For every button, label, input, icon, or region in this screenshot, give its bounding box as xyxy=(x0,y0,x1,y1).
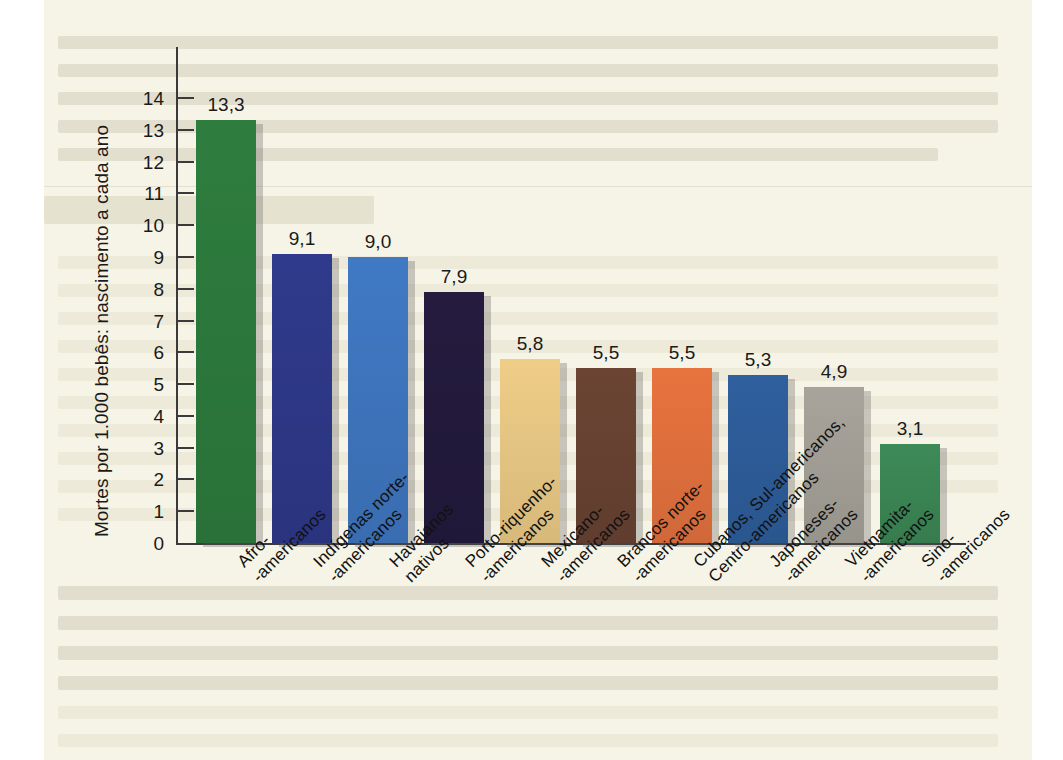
y-tick-label-11: 11 xyxy=(132,184,164,203)
y-tick-label-12: 12 xyxy=(132,153,164,172)
bar-value-label: 5,5 xyxy=(669,342,695,364)
y-tick-7 xyxy=(178,320,194,322)
y-tick-6 xyxy=(178,351,194,353)
y-tick-label-6: 6 xyxy=(132,343,164,362)
bar-group: 13,3 xyxy=(196,120,256,543)
y-tick-12 xyxy=(178,161,194,163)
y-tick-8 xyxy=(178,288,194,290)
infant-mortality-bar-chart: Mortes por 1.000 bebês: nascimento a cad… xyxy=(0,0,1063,760)
y-tick-11 xyxy=(178,192,194,194)
y-tick-label-1: 1 xyxy=(132,502,164,521)
y-tick-3 xyxy=(178,447,194,449)
bar-value-label: 5,5 xyxy=(593,342,619,364)
y-axis-line xyxy=(176,47,178,544)
y-tick-9 xyxy=(178,256,194,258)
y-tick-13 xyxy=(178,129,194,131)
y-tick-label-8: 8 xyxy=(132,280,164,299)
y-tick-label-10: 10 xyxy=(132,216,164,235)
bar-value-label: 13,3 xyxy=(208,94,245,116)
bar-group: 7,9 xyxy=(424,292,484,543)
y-tick-label-9: 9 xyxy=(132,248,164,267)
bar-value-label: 7,9 xyxy=(441,266,467,288)
y-tick-label-5: 5 xyxy=(132,375,164,394)
y-axis-title: Mortes por 1.000 bebês: nascimento a cad… xyxy=(91,111,113,551)
y-tick-label-3: 3 xyxy=(132,439,164,458)
bar-value-label: 3,1 xyxy=(897,418,923,440)
y-tick-label-13: 13 xyxy=(132,121,164,140)
y-tick-5 xyxy=(178,383,194,385)
bar-value-label: 9,1 xyxy=(289,228,315,250)
y-tick-4 xyxy=(178,415,194,417)
y-tick-label-4: 4 xyxy=(132,407,164,426)
bar-value-label: 5,8 xyxy=(517,333,543,355)
bar[interactable] xyxy=(196,120,256,543)
y-tick-1 xyxy=(178,510,194,512)
y-tick-2 xyxy=(178,478,194,480)
y-tick-label-14: 14 xyxy=(132,89,164,108)
y-tick-10 xyxy=(178,224,194,226)
y-tick-label-2: 2 xyxy=(132,470,164,489)
y-tick-label-7: 7 xyxy=(132,312,164,331)
bar-value-label: 9,0 xyxy=(365,231,391,253)
bar[interactable] xyxy=(424,292,484,543)
bar-value-label: 5,3 xyxy=(745,349,771,371)
bar-value-label: 4,9 xyxy=(821,361,847,383)
y-tick-14 xyxy=(178,97,194,99)
y-tick-label-0: 0 xyxy=(132,534,164,553)
